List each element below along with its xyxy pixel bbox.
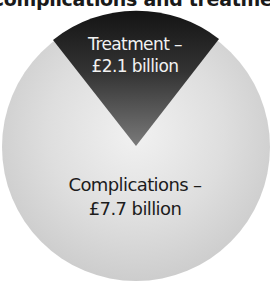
- complications-label-line2: £7.7 billion: [0, 198, 270, 219]
- treatment-label-line1: Treatment –: [0, 34, 270, 54]
- treatment-label-line2: £2.1 billion: [0, 56, 270, 76]
- complications-label-line1: Complications –: [0, 174, 270, 195]
